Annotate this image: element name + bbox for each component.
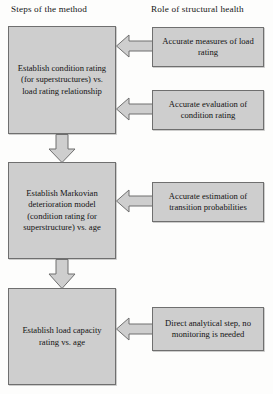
arrow-measures-to-condition bbox=[116, 33, 153, 59]
node-direct-analytical-step[interactable]: Direct analytical step, no monitoring is… bbox=[152, 307, 264, 351]
arrow-markovian-to-loadcapacity bbox=[47, 259, 77, 289]
node-label: Accurate estimation of transition probab… bbox=[153, 191, 263, 214]
node-label: Establish load capacity rating vs. age bbox=[9, 325, 115, 348]
arrow-condition-to-markovian bbox=[47, 134, 77, 163]
left-block-arrow-icon bbox=[116, 33, 153, 59]
node-label: Accurate evaluation of condition rating bbox=[153, 99, 263, 122]
down-block-arrow-icon bbox=[47, 259, 77, 289]
node-accurate-measures-of-load-rating[interactable]: Accurate measures of load rating bbox=[152, 27, 264, 67]
node-establish-load-capacity-rating[interactable]: Establish load capacity rating vs. age bbox=[8, 288, 116, 385]
left-block-arrow-icon bbox=[116, 96, 153, 122]
left-block-arrow-icon bbox=[116, 316, 153, 342]
flowchart-canvas: Steps of the method Role of structural h… bbox=[0, 0, 273, 394]
node-accurate-estimation-of-transition-probabilities[interactable]: Accurate estimation of transition probab… bbox=[152, 182, 264, 222]
node-establish-condition-rating[interactable]: Establish condition rating (for superstr… bbox=[8, 26, 116, 134]
node-establish-markovian-model[interactable]: Establish Markovian deterioration model … bbox=[8, 162, 116, 259]
node-accurate-evaluation-of-condition-rating[interactable]: Accurate evaluation of condition rating bbox=[152, 90, 264, 130]
column-header-steps: Steps of the method bbox=[11, 4, 87, 14]
down-block-arrow-icon bbox=[47, 134, 77, 163]
left-block-arrow-icon bbox=[116, 188, 153, 214]
arrow-evaluation-to-condition bbox=[116, 96, 153, 122]
node-label: Establish condition rating (for superstr… bbox=[9, 63, 115, 97]
arrow-estimation-to-markovian bbox=[116, 188, 153, 214]
node-label: Accurate measures of load rating bbox=[153, 36, 263, 59]
column-header-role: Role of structural health bbox=[151, 4, 244, 14]
node-label: Establish Markovian deterioration model … bbox=[9, 188, 115, 233]
node-label: Direct analytical step, no monitoring is… bbox=[153, 318, 263, 341]
arrow-direct-to-loadcapacity bbox=[116, 316, 153, 342]
